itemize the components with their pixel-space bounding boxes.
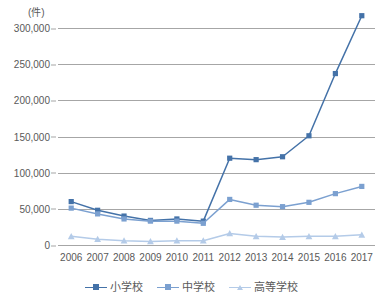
x-axis: 2006200720082009201020112012201320142015…: [58, 248, 375, 268]
y-axis-tick-mark: [51, 245, 56, 246]
legend-label: 高等学校: [254, 282, 298, 293]
data-point: [359, 13, 364, 18]
legend-item[interactable]: 小学校: [85, 282, 143, 293]
series-line: [71, 233, 362, 241]
data-point: [333, 191, 338, 196]
y-axis-tick-label: 250,000: [14, 59, 50, 70]
data-point: [69, 206, 74, 211]
y-axis-tick-label: 0: [44, 240, 50, 251]
data-point: [95, 211, 100, 216]
legend-label: 小学校: [110, 282, 143, 293]
legend-triangle-marker-icon: [237, 285, 243, 290]
data-point: [227, 156, 232, 161]
y-axis-tick-label: 150,000: [14, 131, 50, 142]
series-3: [68, 230, 365, 244]
data-point: [254, 157, 259, 162]
chart-legend: 小学校中学校高等学校: [0, 276, 383, 298]
x-axis-tick-label: 2007: [87, 252, 109, 263]
x-axis-tick-label: 2016: [324, 252, 346, 263]
legend-swatch: [157, 283, 179, 292]
legend-swatch: [229, 283, 251, 292]
y-axis-tick-mark: [51, 28, 56, 29]
data-point: [227, 197, 232, 202]
data-point: [280, 154, 285, 159]
gridline: [58, 245, 375, 246]
data-point: [333, 71, 338, 76]
data-point: [69, 199, 74, 204]
line-chart: (件) 300,000250,000200,000150,000100,0005…: [0, 0, 383, 298]
data-point: [359, 184, 364, 189]
legend-item[interactable]: 高等学校: [229, 282, 298, 293]
legend-swatch: [85, 283, 107, 292]
data-point: [174, 219, 179, 224]
series-container: [58, 28, 375, 245]
legend-square-marker-icon: [165, 284, 171, 290]
x-axis-tick-label: 2006: [60, 252, 82, 263]
y-axis-tick-label: 50,000: [19, 203, 50, 214]
series-1: [69, 13, 365, 224]
data-point: [306, 200, 311, 205]
legend-label: 中学校: [182, 282, 215, 293]
data-point: [201, 221, 206, 226]
y-axis-tick-mark: [51, 64, 56, 65]
series-line: [71, 186, 362, 223]
x-axis-tick-label: 2014: [271, 252, 293, 263]
y-axis: 300,000250,000200,000150,000100,00050,00…: [0, 0, 58, 298]
plot-area: [58, 28, 375, 245]
x-axis-tick-label: 2009: [139, 252, 161, 263]
x-axis-tick-label: 2012: [219, 252, 241, 263]
y-axis-tick-label: 300,000: [14, 23, 50, 34]
y-axis-tick-mark: [51, 209, 56, 210]
y-axis-tick-label: 100,000: [14, 167, 50, 178]
x-axis-tick-label: 2015: [298, 252, 320, 263]
data-point: [280, 204, 285, 209]
x-axis-tick-label: 2010: [166, 252, 188, 263]
x-axis-tick-label: 2017: [351, 252, 373, 263]
x-axis-tick-label: 2013: [245, 252, 267, 263]
y-axis-tick-mark: [51, 100, 56, 101]
legend-item[interactable]: 中学校: [157, 282, 215, 293]
x-axis-tick-label: 2011: [193, 252, 215, 263]
x-axis-tick-label: 2008: [113, 252, 135, 263]
data-point: [306, 133, 311, 138]
data-point: [121, 216, 126, 221]
data-point: [148, 219, 153, 224]
y-axis-tick-mark: [51, 173, 56, 174]
y-axis-tick-mark: [51, 137, 56, 138]
data-point: [254, 203, 259, 208]
legend-square-marker-icon: [93, 284, 99, 290]
series-line: [71, 16, 362, 221]
y-axis-tick-label: 200,000: [14, 95, 50, 106]
